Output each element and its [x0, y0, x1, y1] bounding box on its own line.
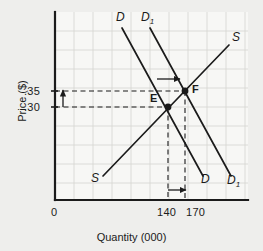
- demand-curve-label-top: D: [116, 11, 125, 23]
- demand-curve-label-bottom: D: [201, 173, 210, 185]
- origin-label: 0: [51, 207, 57, 218]
- supply-demand-figure: .35 .30 0 140 170 Price ($) Quantity (00…: [0, 0, 263, 251]
- supply-curve-label-top: S: [232, 31, 240, 43]
- demand-shifted-bottom-subscript: 1: [236, 180, 240, 189]
- point-e-marker: [165, 104, 172, 111]
- x-axis-title: Quantity (000): [0, 231, 263, 243]
- x-tick-label-170: 170: [186, 207, 205, 218]
- chart-canvas: [0, 0, 263, 251]
- point-f-label: F: [192, 84, 199, 95]
- demand-shifted-label-base: D: [141, 10, 150, 24]
- demand-shifted-curve-label-bottom: D1: [227, 174, 240, 189]
- point-f-marker: [182, 88, 189, 95]
- demand-shifted-curve-label-top: D1: [141, 11, 154, 26]
- point-e-label: E: [150, 93, 157, 104]
- y-axis-title: Price ($): [16, 80, 28, 122]
- plot-background: [55, 12, 248, 200]
- demand-shifted-bottom-base: D: [227, 173, 236, 187]
- supply-curve-label-bottom: S: [91, 172, 99, 184]
- demand-shifted-label-subscript: 1: [150, 17, 154, 26]
- y-axis-title-wrapper: Price ($): [12, 66, 30, 136]
- x-tick-label-140: 140: [157, 207, 176, 218]
